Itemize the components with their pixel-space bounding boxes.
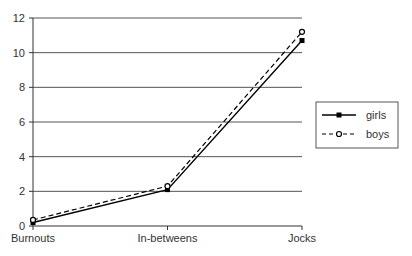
legend-boys-label: boys	[366, 128, 390, 140]
y-axis-ticks: 024681012	[13, 12, 33, 232]
marker-boys	[31, 217, 36, 222]
legend-boys-marker	[337, 132, 342, 137]
marker-boys	[300, 29, 305, 34]
data-series	[31, 29, 305, 225]
y-tick-label: 12	[13, 12, 25, 24]
series-line-girls	[33, 41, 302, 223]
x-tick-label: Jocks	[288, 232, 317, 244]
gridlines	[33, 18, 302, 191]
legend-girls-label: girls	[366, 109, 387, 121]
marker-boys	[165, 184, 170, 189]
y-tick-label: 10	[13, 47, 25, 59]
y-tick-label: 4	[19, 151, 25, 163]
line-chart: 024681012 BurnoutsIn-betweensJocks girls…	[0, 0, 412, 256]
x-tick-label: In-betweens	[138, 232, 198, 244]
y-tick-label: 8	[19, 81, 25, 93]
x-axis-ticks: BurnoutsIn-betweensJocks	[11, 226, 317, 244]
marker-girls	[300, 38, 305, 43]
y-tick-label: 0	[19, 220, 25, 232]
x-tick-label: Burnouts	[11, 232, 56, 244]
y-tick-label: 6	[19, 116, 25, 128]
legend: girls boys	[316, 102, 398, 148]
y-tick-label: 2	[19, 185, 25, 197]
legend-girls-marker	[337, 113, 342, 118]
